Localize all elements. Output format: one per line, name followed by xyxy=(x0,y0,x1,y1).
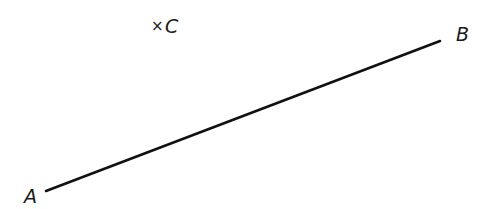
geometry-diagram: A B × C xyxy=(0,0,480,209)
segment-ab xyxy=(46,41,440,191)
point-c-cross-icon: × xyxy=(151,17,164,35)
point-a-label: A xyxy=(22,185,37,207)
point-c-label: C xyxy=(165,15,179,37)
point-b-label: B xyxy=(456,23,469,45)
